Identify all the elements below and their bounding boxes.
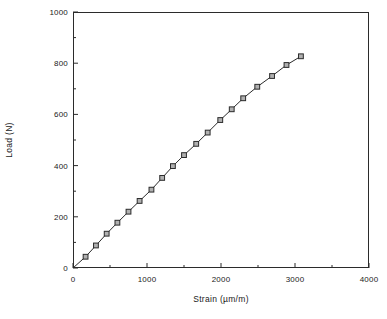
data-series-markers [83,54,303,259]
x-tick-label: 4000 [360,275,379,284]
data-point-marker [205,130,210,135]
x-tick-label: 1000 [138,275,157,284]
y-tick-label: 600 [54,110,68,119]
y-tick-label: 400 [54,161,68,170]
data-point-marker [83,254,88,259]
y-tick-label: 200 [54,212,68,221]
x-tick-label: 3000 [286,275,305,284]
data-point-marker [171,164,176,169]
x-tick-label: 0 [71,275,76,284]
data-point-marker [284,63,289,68]
data-point-marker [160,175,165,180]
chart-plot-svg [73,12,369,268]
data-point-marker [194,141,199,146]
chart-figure: 02004006008001000 01000200030004000 Load… [0,0,387,319]
y-tick-label: 800 [54,59,68,68]
data-point-marker [149,187,154,192]
data-point-marker [255,84,260,89]
data-point-marker [218,118,223,123]
data-point-marker [241,96,246,101]
major-ticks [73,12,369,268]
data-point-marker [115,220,120,225]
data-point-marker [137,199,142,204]
data-point-marker [182,153,187,158]
data-point-marker [104,231,109,236]
y-tick-label: 1000 [49,8,68,17]
x-axis-title: Strain (µm/m) [193,294,249,304]
data-point-marker [299,54,304,59]
data-point-marker [270,74,275,79]
data-point-marker [229,107,234,112]
y-axis-title: Load (N) [4,122,14,157]
y-tick-label: 0 [63,264,68,273]
data-point-marker [94,243,99,248]
data-point-marker [126,209,131,214]
minor-ticks [73,38,332,268]
x-tick-label: 2000 [212,275,231,284]
